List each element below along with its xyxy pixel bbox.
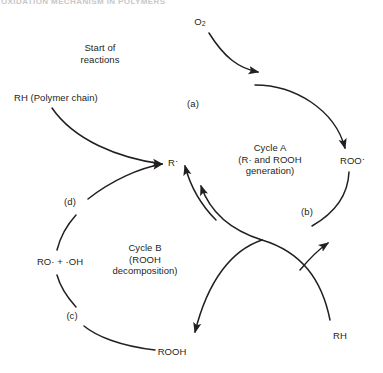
label-rooh: ROOH — [158, 346, 187, 358]
cycle-b-line-3: decomposition) — [112, 265, 177, 277]
label-cycle-a: Cycle A (R· and ROOH generation) — [238, 142, 301, 177]
arrow-crossing-down-to-rooh — [195, 240, 262, 332]
arrow-cyclea-left-to-r-radical — [185, 166, 216, 220]
start-of-reactions-line-2: reactions — [81, 54, 120, 66]
cycle-a-line-1: Cycle A — [238, 142, 301, 154]
arc-ro-oh-to-step-d — [57, 215, 76, 250]
arrow-o2-to-cyclea — [209, 33, 258, 72]
label-step-b: (b) — [301, 206, 313, 218]
label-step-d: (d) — [64, 196, 76, 208]
arc-step-c-to-ro-oh — [57, 275, 76, 307]
cycle-a-line-3: generation) — [238, 165, 301, 177]
arrow-rh-to-cyclea — [262, 240, 330, 320]
label-start-of-reactions: Start of reactions — [81, 42, 120, 65]
label-roo-radical: ROO· — [340, 155, 365, 167]
diagram-page: OXIDATION MECHANISM IN POLYMERS — [0, 0, 383, 373]
cycle-a-line-2: (R· and ROOH — [238, 154, 301, 166]
label-step-a: (a) — [187, 98, 199, 110]
autoxidation-cycle-diagram — [0, 0, 383, 373]
label-ro-oh: RO· + ·OH — [37, 256, 83, 268]
arrowhead-rh-into-crossing — [300, 243, 328, 270]
label-cycle-b: Cycle B (ROOH decomposition) — [112, 242, 177, 277]
arrow-step-d-to-r-radical — [88, 164, 162, 199]
arc-rooh-to-step-c — [84, 326, 155, 350]
arc-cyclea-right-down — [312, 172, 349, 226]
cycle-b-line-2: (ROOH — [112, 254, 177, 266]
label-rh: RH — [333, 330, 347, 342]
label-r-radical: R· — [168, 157, 178, 169]
label-o2: O2 — [194, 16, 205, 30]
label-rh-polymer-chain: RH (Polymer chain) — [14, 92, 98, 104]
arc-cyclea-top-right — [255, 85, 345, 148]
arrow-rh-polymer-to-r-radical — [52, 108, 162, 164]
cycle-b-line-1: Cycle B — [112, 242, 177, 254]
start-of-reactions-line-1: Start of — [81, 42, 120, 54]
label-step-c: (c) — [66, 310, 77, 322]
